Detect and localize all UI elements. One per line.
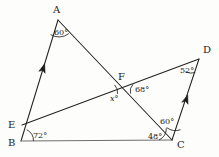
vertex-label-E: E <box>8 119 15 130</box>
parallel-mark-BA <box>39 63 48 73</box>
vertex-label-C: C <box>177 139 185 150</box>
vertex-label-D: D <box>203 44 211 55</box>
vertex-label-F: F <box>118 71 125 82</box>
angle-label-at-B: 72° <box>33 131 47 140</box>
vertex-label-A: A <box>52 4 61 15</box>
vertex-label-B: B <box>8 137 15 148</box>
angle-label-at-D: 52° <box>180 66 194 75</box>
geometry-canvas: A B C D E F 60° 72° 48° 60° 52° 68° x° <box>0 0 219 157</box>
angle-label-at-F-unknown: x° <box>110 94 119 103</box>
angle-labels-group: 60° 72° 48° 60° 52° 68° x° <box>33 28 194 141</box>
segment-E-D <box>22 59 199 125</box>
angle-label-at-F-upper: 68° <box>135 85 149 94</box>
angle-label-at-C-base: 48° <box>148 132 162 141</box>
vertex-labels-group: A B C D E F <box>8 4 211 150</box>
angle-label-at-C-upper: 60° <box>160 117 174 126</box>
geometry-figure: A B C D E F 60° 72° 48° 60° 52° 68° x° <box>0 0 219 157</box>
segment-A-C <box>58 20 172 140</box>
arc-at-C-upper <box>167 128 181 131</box>
angle-label-at-A: 60° <box>54 28 68 37</box>
arc-at-F-upper <box>130 84 133 93</box>
